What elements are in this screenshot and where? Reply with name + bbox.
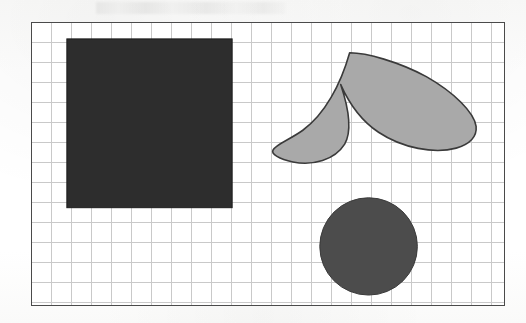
shape-gray-crescent: [273, 53, 477, 163]
shapes-svg: [32, 23, 504, 305]
shape-dark-square: [67, 39, 232, 208]
figure-frame: [31, 22, 505, 306]
figure-canvas: [0, 0, 526, 323]
scan-artifact-smudge: [96, 2, 286, 14]
shape-dark-circle: [320, 198, 418, 295]
shape-layer: [32, 23, 504, 305]
